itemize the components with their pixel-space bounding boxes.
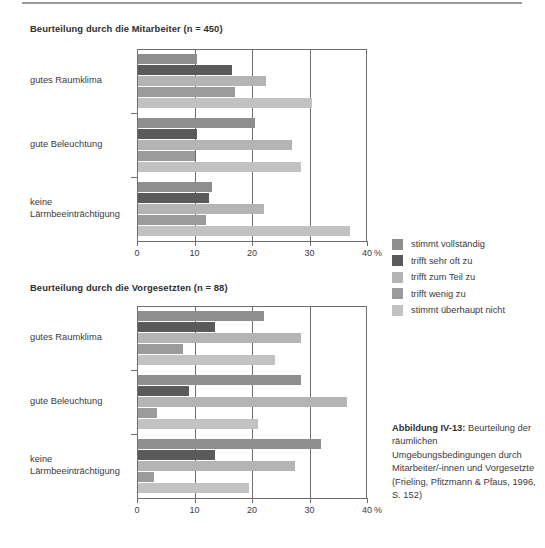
legend-label-1: trifft sehr oft zu [411,253,472,269]
legend-item-1: trifft sehr oft zu [392,253,542,270]
figure-caption-text: Beurteilung der räumlichen Umgebungsbedi… [392,423,536,500]
bar-top-g2-s1 [138,193,209,203]
x-tick-30 [310,242,311,246]
bar-top-g2-s0 [138,182,212,192]
chart-title-bottom: Beurteilung durch die Vorgesetzten (n = … [30,282,228,293]
x-tick-label-40: 40 [362,248,372,258]
bar-top-g2-s2 [138,204,264,214]
x-tick-label-10: 10 [189,248,199,258]
bar-bottom-g2-s3 [138,472,154,482]
category-tick [131,434,137,435]
legend-swatch-icon-0 [392,239,403,250]
x-tick-40 [367,499,368,503]
gridline-30 [310,49,311,241]
legend-label-3: trifft wenig zu [411,286,466,302]
bar-top-g0-s0 [138,54,197,64]
x-tick-label-20: 20 [247,248,257,258]
bar-bottom-g1-s3 [138,408,157,418]
x-tick-40 [367,242,368,246]
legend-item-3: trifft wenig zu [392,286,542,303]
bar-top-g0-s4 [138,98,312,108]
bar-top-g2-s4 [138,226,350,236]
x-axis-unit-bottom: % [374,505,382,515]
category-label-top-0: gutes Raumklima [30,74,130,86]
x-tick-10 [195,242,196,246]
x-tick-label-0: 0 [134,248,139,258]
x-tick-0 [137,499,138,503]
legend-label-0: stimmt vollständig [411,236,485,252]
figure-page: Beurteilung durch die Mitarbeiter (n = 4… [0,0,545,548]
bar-bottom-g1-s2 [138,397,347,407]
category-label-top-2: keine Lärmbeeinträchtigung [30,196,130,220]
bar-bottom-g1-s4 [138,419,258,429]
bar-bottom-g1-s1 [138,386,189,396]
x-tick-10 [195,499,196,503]
legend-item-4: stimmt überhaupt nicht [392,302,542,319]
x-tick-label-20: 20 [247,505,257,515]
bar-bottom-g0-s2 [138,333,301,343]
bar-bottom-g1-s0 [138,375,301,385]
bar-top-g0-s2 [138,76,266,86]
bar-top-g1-s2 [138,140,292,150]
bar-bottom-g0-s0 [138,311,264,321]
bar-top-g2-s3 [138,215,206,225]
x-tick-20 [252,499,253,503]
bar-bottom-g0-s1 [138,322,215,332]
bar-top-g0-s3 [138,87,235,97]
x-tick-label-10: 10 [189,505,199,515]
bar-top-g1-s1 [138,129,197,139]
x-tick-0 [137,242,138,246]
bar-top-g1-s3 [138,151,195,161]
x-axis-unit-top: % [374,248,382,258]
x-tick-label-0: 0 [134,505,139,515]
category-label-top-1: gute Beleuchtung [30,138,130,150]
legend-label-2: trifft zum Teil zu [411,269,475,285]
x-tick-label-30: 30 [304,248,314,258]
legend-item-2: trifft zum Teil zu [392,269,542,286]
x-tick-label-30: 30 [304,505,314,515]
legend-swatch-icon-4 [392,305,403,316]
bar-top-g1-s0 [138,118,255,128]
bar-bottom-g2-s4 [138,483,249,493]
bar-bottom-g2-s2 [138,461,295,471]
figure-caption-label: Abbildung IV-13: [392,423,465,433]
legend-swatch-icon-1 [392,255,403,266]
chart-title-top: Beurteilung durch die Mitarbeiter (n = 4… [30,23,223,34]
chart-plot-top: gutes Raumklimagute Beleuchtungkeine Lär… [137,49,367,241]
bar-bottom-g0-s3 [138,344,183,354]
chart-legend: stimmt vollständigtrifft sehr oft zutrif… [392,236,542,319]
category-tick [131,177,137,178]
x-tick-label-40: 40 [362,505,372,515]
top-divider-rule [22,2,522,4]
legend-label-4: stimmt überhaupt nicht [411,302,505,318]
category-label-bottom-0: gutes Raumklima [30,331,130,343]
legend-swatch-icon-2 [392,272,403,283]
legend-swatch-icon-3 [392,288,403,299]
category-tick [131,370,137,371]
bar-top-g0-s1 [138,65,232,75]
bar-bottom-g2-s0 [138,439,321,449]
x-tick-20 [252,242,253,246]
bar-top-g1-s4 [138,162,301,172]
category-tick [131,113,137,114]
legend-item-0: stimmt vollständig [392,236,542,253]
bar-bottom-g0-s4 [138,355,275,365]
category-label-bottom-1: gute Beleuchtung [30,395,130,407]
bar-bottom-g2-s1 [138,450,215,460]
category-label-bottom-2: keine Lärmbeeinträchtigung [30,453,130,477]
x-tick-30 [310,499,311,503]
chart-plot-bottom: gutes Raumklimagute Beleuchtungkeine Lär… [137,306,367,498]
figure-caption: Abbildung IV-13: Beurteilung der räumlic… [392,422,542,502]
